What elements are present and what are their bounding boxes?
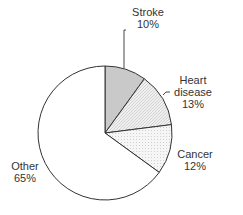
heart-name1: Heart [168, 74, 218, 86]
stroke-pct: 10% [128, 18, 168, 30]
stroke-name: Stroke [128, 6, 168, 18]
label-cancer: Cancer 12% [173, 148, 217, 172]
label-stroke: Stroke 10% [128, 6, 168, 30]
other-pct: 65% [6, 172, 44, 184]
cancer-pct: 12% [173, 160, 217, 172]
label-heart-disease: Heart disease 13% [168, 74, 218, 110]
stroke-leader [124, 30, 126, 68]
heart-pct: 13% [168, 98, 218, 110]
cancer-name: Cancer [173, 148, 217, 160]
heart-name2: disease [168, 86, 218, 98]
label-other: Other 65% [6, 160, 44, 184]
other-name: Other [6, 160, 44, 172]
